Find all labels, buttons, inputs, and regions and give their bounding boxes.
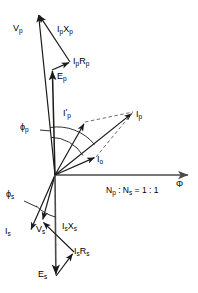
vector-is bbox=[31, 175, 55, 230]
vector-ip bbox=[55, 114, 132, 175]
vector-es bbox=[55, 175, 56, 274]
label-ep: Ep bbox=[57, 72, 67, 81]
parallelogram-side-top bbox=[85, 112, 133, 122]
label-isrs: IsRs bbox=[74, 247, 90, 256]
phasor-diagram: Vp IpXp IpRp Ep I'p Ip Io ϕp Φ Np : Ns =… bbox=[0, 0, 198, 293]
label-io: Io bbox=[97, 155, 103, 164]
label-isxs: IsXs bbox=[62, 222, 77, 231]
vector-ipxp bbox=[39, 15, 70, 62]
label-vp: Vp bbox=[13, 24, 23, 33]
label-es: Es bbox=[38, 270, 47, 279]
label-iprp: IpRp bbox=[73, 57, 89, 66]
angle-arc-phi-p-outer bbox=[50, 127, 95, 145]
label-ip: Ip bbox=[136, 110, 142, 119]
vector-iprp bbox=[52, 63, 69, 70]
label-flux-axis: Φ bbox=[176, 180, 183, 189]
label-ip-prime: I'p bbox=[63, 109, 71, 118]
vector-ip-prime bbox=[55, 124, 84, 175]
label-phi-s: ϕs bbox=[6, 190, 14, 199]
vector-io bbox=[55, 158, 95, 175]
label-turns-ratio: Np : Ns = 1 : 1 bbox=[106, 186, 158, 195]
vector-isrs bbox=[56, 254, 73, 276]
parallelogram-side-right bbox=[96, 112, 133, 157]
leader-phi-s bbox=[24, 201, 37, 207]
label-phi-p: ϕp bbox=[20, 123, 29, 132]
label-is: Is bbox=[5, 227, 11, 236]
leader-phi-p bbox=[40, 130, 51, 131]
label-vs: Vs bbox=[36, 225, 45, 234]
label-ipxp: IpXp bbox=[57, 25, 73, 34]
phasor-canvas bbox=[0, 0, 198, 293]
